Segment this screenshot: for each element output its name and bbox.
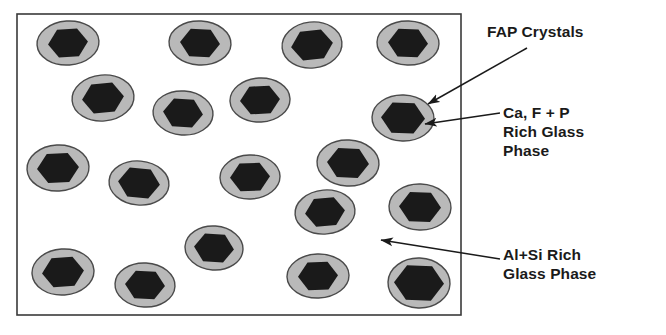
fap-crystals-label: FAP Crystals — [487, 22, 584, 41]
figure-canvas: FAP Crystals Ca, F + P Rich Glass Phase … — [0, 0, 666, 335]
microstructure-diagram — [0, 0, 666, 335]
ca-f-p-rich-glass-phase-label: Ca, F + P Rich Glass Phase — [503, 103, 584, 160]
al-si-rich-glass-phase-label: Al+Si Rich Glass Phase — [503, 245, 596, 283]
